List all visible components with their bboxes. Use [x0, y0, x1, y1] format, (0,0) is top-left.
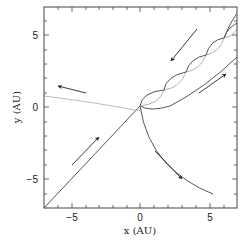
arrow-down-right: [155, 151, 182, 179]
lower-outgoing-curve: [140, 57, 237, 109]
left-outgoing-line: [44, 96, 140, 111]
x-tick-label-0: 0: [137, 212, 143, 223]
arrow-down-left: [171, 29, 197, 61]
plot-area: [44, 10, 240, 208]
y-tick-label-neg5: −5: [27, 174, 39, 185]
descending-curve: [140, 106, 213, 194]
trajectory-chart: −5 0 5 5 0 −5 x (AU) y (AU): [0, 0, 251, 242]
arrow-up-right-lower: [72, 137, 99, 165]
x-axis-label: x (AU): [124, 225, 156, 236]
arrow-up-left: [58, 86, 86, 93]
y-tick-label-5: 5: [32, 30, 38, 41]
x-axis-ticks: [58, 7, 224, 208]
x-tick-label-5: 5: [207, 212, 213, 223]
y-axis-label: y (AU): [11, 91, 22, 124]
loop-tail: [224, 10, 240, 38]
arrow-up-right: [199, 74, 226, 93]
incoming-diagonal-line: [44, 106, 140, 208]
x-tick-label-neg5: −5: [66, 212, 78, 223]
y-tick-label-0: 0: [32, 102, 38, 113]
